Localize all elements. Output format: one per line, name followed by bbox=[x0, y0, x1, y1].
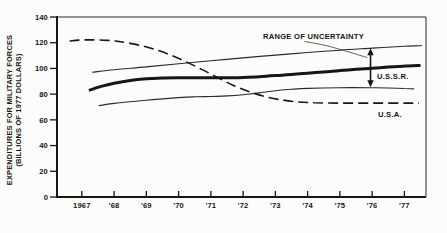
x-tick-label: '77 bbox=[399, 201, 410, 210]
arrow-head-up-icon bbox=[367, 48, 373, 55]
military-expenditures-figure: EXPENDITURES FOR MILITARY FORCES (BILLIO… bbox=[0, 0, 447, 233]
usa-series-label: U.S.A. bbox=[378, 110, 402, 119]
plot-frame bbox=[56, 16, 426, 198]
ussr-series-label: U.S.S.R. bbox=[377, 72, 409, 81]
x-tick-label: '75 bbox=[335, 201, 346, 210]
x-tick-label: 1967 bbox=[73, 201, 91, 210]
y-tick-label: 0 bbox=[44, 193, 48, 202]
x-tick-label: '68 bbox=[109, 201, 120, 210]
x-tick-label: '74 bbox=[302, 201, 313, 210]
x-tick-label: '72 bbox=[238, 201, 249, 210]
arrow-head-down-icon bbox=[367, 80, 373, 87]
data-series bbox=[70, 40, 423, 106]
y-tick-label: 80 bbox=[39, 90, 48, 99]
y-tick-label: 140 bbox=[35, 13, 48, 22]
y-axis-title-line1: EXPENDITURES FOR MILITARY FORCES bbox=[5, 35, 14, 185]
axis-ticks: 0204060801001201401967'68'69'70'71'72'73… bbox=[35, 13, 410, 210]
y-tick-label: 40 bbox=[39, 141, 48, 150]
y-tick-label: 120 bbox=[35, 38, 48, 47]
y-tick-label: 100 bbox=[35, 64, 48, 73]
military-expenditures-chart: EXPENDITURES FOR MILITARY FORCES (BILLIO… bbox=[0, 0, 447, 233]
range-of-uncertainty-label: RANGE OF UNCERTAINTY bbox=[263, 32, 364, 41]
x-tick-label: '71 bbox=[206, 201, 217, 210]
x-tick-label: '73 bbox=[270, 201, 281, 210]
y-tick-label: 20 bbox=[39, 167, 48, 176]
x-tick-label: '76 bbox=[367, 201, 378, 210]
y-axis-title-line2: (BILLIONS OF 1977 DOLLARS) bbox=[14, 53, 23, 167]
x-tick-label: '69 bbox=[141, 201, 152, 210]
y-tick-label: 60 bbox=[39, 116, 48, 125]
x-tick-label: '70 bbox=[173, 201, 184, 210]
series-usa bbox=[70, 40, 419, 103]
